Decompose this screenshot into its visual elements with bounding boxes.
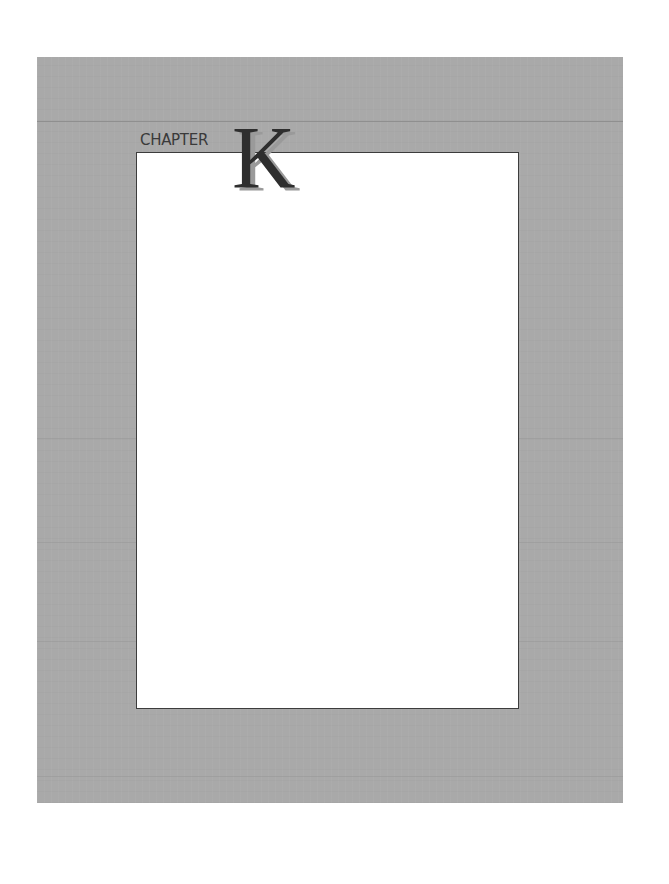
header-rule-line	[37, 121, 623, 122]
chapter-label: CHAPTER	[140, 132, 208, 148]
chapter-letter: K	[232, 118, 296, 198]
chapter-letter-heading: K K	[232, 118, 312, 198]
chapter-content-box	[136, 152, 519, 709]
faint-scan-line	[37, 776, 623, 777]
